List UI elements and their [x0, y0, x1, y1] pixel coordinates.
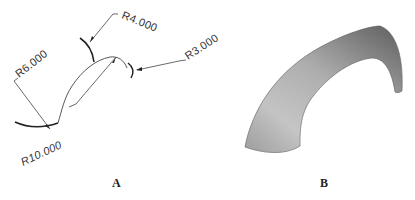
r6-leader	[14, 78, 50, 129]
r4-arc	[80, 38, 94, 62]
arch-highlight	[245, 26, 402, 153]
r4-label: R4.000	[120, 9, 159, 34]
r6-label: R6.000	[13, 47, 50, 79]
r4-leader	[90, 14, 118, 42]
r3-arc	[128, 63, 133, 78]
r3-leader	[136, 60, 186, 71]
r10-label: R10.000	[19, 138, 64, 168]
panel-a-label: A	[112, 176, 121, 190]
panel-b-label: B	[320, 176, 328, 190]
panel-b-3d-surface: B	[245, 26, 402, 190]
panel-a-profile-sketch: R6.000 R4.000 R3.000 R10.000 A	[13, 9, 221, 190]
profile-curve	[58, 57, 127, 123]
r6-arc	[15, 122, 58, 127]
figure-canvas: R6.000 R4.000 R3.000 R10.000 A B	[0, 0, 415, 200]
r3-label: R3.000	[183, 31, 221, 61]
